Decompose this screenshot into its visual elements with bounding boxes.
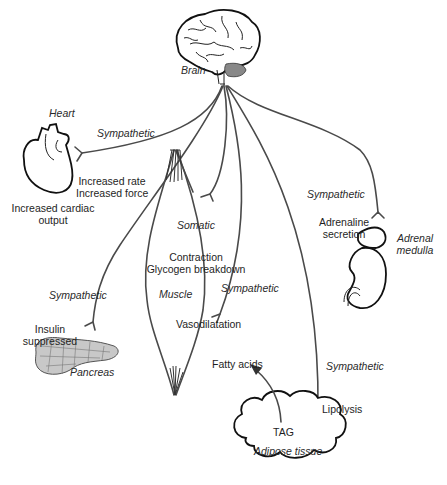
fatty-acids-label: Fatty acids	[212, 358, 263, 370]
heart-effect-rate: Increased rate	[76, 175, 148, 187]
tag-label: TAG	[273, 426, 294, 438]
somatic-pathway-label: Somatic	[177, 219, 215, 231]
muscle-effect-glycogen: Glycogen breakdown	[146, 263, 246, 275]
adrenal-label-line2: medulla	[393, 244, 437, 256]
vasodilatation-label: Vasodilatation	[176, 318, 241, 330]
diagram-canvas: Brain Heart Sympathetic Increased rate I…	[0, 0, 447, 485]
adipose-tissue-label: Adipose tissue	[254, 445, 322, 457]
adrenal-effect-line1: Adrenaline	[315, 216, 373, 228]
brain-label: Brain	[181, 64, 206, 76]
heart-icon	[24, 124, 73, 193]
lipolysis-label: Lipolysis	[322, 403, 362, 415]
adrenal-pathway-label: Sympathetic	[307, 188, 365, 200]
cardiac-output-label: Increased cardiac output	[10, 202, 96, 226]
adrenal-medulla-label: Adrenal medulla	[393, 232, 437, 256]
diagram-graphics	[0, 0, 447, 485]
pancreas-effect-label: Insulin suppressed	[22, 323, 78, 347]
pancreas-pathway-label: Sympathetic	[49, 289, 107, 301]
adrenal-effect-label: Adrenaline secretion	[315, 216, 373, 240]
muscle-label: Muscle	[159, 288, 192, 300]
vessel-pathway-label: Sympathetic	[221, 282, 279, 294]
heart-pathway-label: Sympathetic	[97, 127, 155, 139]
pancreas-label: Pancreas	[70, 366, 114, 378]
pancreas-effect-line2: suppressed	[22, 335, 78, 347]
cardiac-output-line1: Increased cardiac	[10, 202, 96, 214]
pancreas-effect-line1: Insulin	[22, 323, 78, 335]
heart-label: Heart	[49, 107, 75, 119]
muscle-effect-contraction: Contraction	[146, 251, 246, 263]
adipose-pathway-label: Sympathetic	[326, 360, 384, 372]
adrenal-effect-line2: secretion	[315, 228, 373, 240]
muscle-effect-label: Contraction Glycogen breakdown	[146, 251, 246, 275]
adrenal-label-line1: Adrenal	[393, 232, 437, 244]
heart-effect-force: Increased force	[76, 187, 148, 199]
cardiac-output-line2: output	[10, 214, 96, 226]
heart-effect-label: Increased rate Increased force	[76, 175, 148, 199]
